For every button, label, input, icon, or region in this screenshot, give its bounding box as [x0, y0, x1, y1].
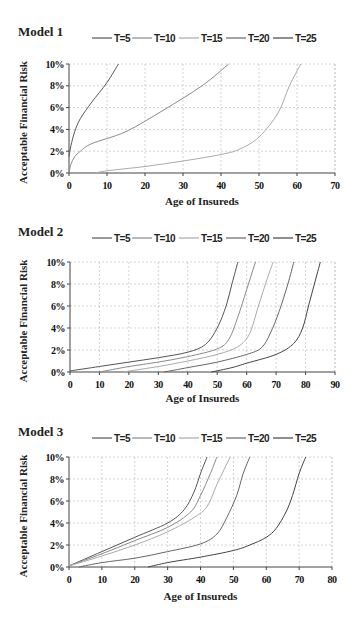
y-tick-label: 10%	[47, 257, 66, 268]
x-axis-label: Age of Insureds	[165, 195, 239, 207]
y-tick-label: 8%	[50, 474, 65, 485]
y-tick-label: 2%	[50, 540, 65, 551]
legend-item-t-15: T=15	[179, 233, 223, 244]
legend-label: T=15	[201, 233, 223, 244]
series-line-t-10	[99, 262, 255, 372]
legend-item-t-10: T=10	[132, 233, 176, 244]
y-tick-label: 2%	[51, 345, 66, 356]
legend-label: T=20	[248, 33, 270, 44]
legend-label: T=5	[114, 233, 131, 244]
x-tick-label: 70	[272, 379, 282, 390]
y-axis-label: Acceptable Financial Risk	[17, 454, 29, 578]
legend-label: T=20	[248, 433, 270, 444]
x-tick-label: 50	[213, 379, 223, 390]
x-tick-label: 30	[179, 180, 189, 191]
chart-title: Model 3	[18, 424, 64, 439]
legend-item-t-20: T=20	[226, 233, 270, 244]
legend-item-t-5: T=5	[92, 233, 131, 244]
x-tick-label: 20	[141, 180, 151, 191]
legend-label: T=5	[114, 33, 131, 44]
series-line-t-10	[69, 64, 229, 173]
x-tick-label: 40	[217, 180, 227, 191]
y-tick-label: 6%	[50, 102, 65, 113]
x-tick-label: 90	[331, 379, 341, 390]
x-axis-label: Age of Insureds	[166, 392, 240, 404]
y-tick-label: 0%	[50, 562, 65, 573]
legend-label: T=10	[154, 433, 176, 444]
y-tick-label: 8%	[51, 279, 66, 290]
model-1-chart: Model 1T=5T=10T=15T=20T=2501020304050607…	[0, 0, 356, 210]
x-tick-label: 10	[95, 379, 105, 390]
legend-item-t-15: T=15	[179, 433, 223, 444]
x-tick-label: 0	[67, 180, 72, 191]
y-tick-label: 4%	[51, 323, 66, 334]
y-tick-label: 0%	[51, 367, 66, 378]
model-1-svg: Model 1T=5T=10T=15T=20T=2501020304050607…	[0, 0, 356, 210]
x-tick-label: 40	[183, 379, 193, 390]
y-tick-label: 6%	[51, 301, 66, 312]
x-tick-label: 70	[295, 574, 305, 585]
legend-label: T=25	[295, 33, 317, 44]
legend-label: T=25	[295, 233, 317, 244]
model-3-svg: Model 3T=5T=10T=15T=20T=2501020304050607…	[0, 410, 356, 627]
y-tick-label: 6%	[50, 496, 65, 507]
legend-item-t-10: T=10	[132, 433, 176, 444]
x-tick-label: 0	[68, 379, 73, 390]
y-tick-label: 10%	[46, 59, 65, 70]
x-tick-label: 60	[293, 180, 303, 191]
x-tick-label: 80	[328, 574, 338, 585]
x-tick-label: 20	[124, 379, 134, 390]
legend-item-t-15: T=15	[179, 33, 223, 44]
y-axis-label: Acceptable Financial Risk	[17, 60, 29, 184]
x-axis-label: Age of Insureds	[164, 590, 238, 602]
legend-label: T=15	[201, 433, 223, 444]
chart-title: Model 1	[18, 24, 63, 39]
legend-label: T=20	[248, 233, 270, 244]
x-tick-label: 60	[242, 379, 252, 390]
x-tick-label: 40	[196, 574, 206, 585]
legend-label: T=10	[154, 33, 176, 44]
legend-label: T=25	[295, 433, 317, 444]
legend-item-t-25: T=25	[273, 33, 317, 44]
model-3-chart: Model 3T=5T=10T=15T=20T=2501020304050607…	[0, 410, 356, 627]
model-2-svg: Model 2T=5T=10T=15T=20T=2501020304050607…	[0, 210, 356, 410]
x-tick-label: 20	[130, 574, 140, 585]
legend-label: T=10	[154, 233, 176, 244]
x-tick-label: 10	[97, 574, 107, 585]
series-line-t-5	[69, 457, 207, 566]
model-2-chart: Model 2T=5T=10T=15T=20T=2501020304050607…	[0, 210, 356, 410]
y-axis-label: Acceptable Financial Risk	[17, 259, 29, 383]
series-line-t-5	[70, 262, 238, 371]
legend-item-t-20: T=20	[226, 433, 270, 444]
x-tick-label: 0	[67, 574, 72, 585]
legend-item-t-20: T=20	[226, 33, 270, 44]
x-tick-label: 30	[154, 379, 164, 390]
series-line-t-15	[96, 64, 301, 173]
x-tick-label: 70	[331, 180, 341, 191]
y-tick-label: 4%	[50, 518, 65, 529]
y-tick-label: 10%	[46, 452, 65, 463]
legend-label: T=5	[114, 433, 131, 444]
x-tick-label: 50	[229, 574, 239, 585]
series-line-t-10	[69, 457, 217, 566]
series-line-t-15	[69, 457, 230, 566]
legend-item-t-5: T=5	[92, 33, 131, 44]
legend-item-t-5: T=5	[92, 433, 131, 444]
y-tick-label: 0%	[50, 168, 65, 179]
legend-label: T=15	[201, 33, 223, 44]
chart-title: Model 2	[18, 224, 63, 239]
x-tick-label: 10	[103, 180, 113, 191]
y-tick-label: 8%	[50, 80, 65, 91]
x-tick-label: 60	[262, 574, 272, 585]
y-tick-label: 2%	[50, 146, 65, 157]
legend-item-t-25: T=25	[273, 233, 317, 244]
x-tick-label: 80	[301, 379, 311, 390]
series-line-t-25	[211, 262, 320, 372]
x-tick-label: 30	[163, 574, 173, 585]
legend-item-t-25: T=25	[273, 433, 317, 444]
legend-item-t-10: T=10	[132, 33, 176, 44]
x-tick-label: 50	[255, 180, 265, 191]
y-tick-label: 4%	[50, 124, 65, 135]
